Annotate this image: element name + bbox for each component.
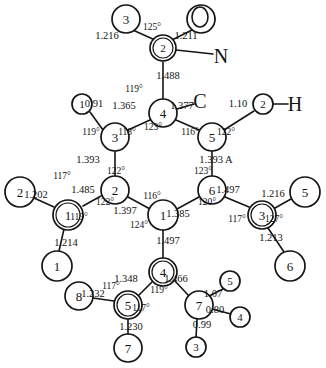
atom-o2-left-label: 2 (17, 185, 24, 200)
angle-119-c2sub: 119° (70, 213, 88, 223)
angle-123-c4: 123° (144, 123, 162, 133)
bond-length-1216-right: 1.216 (261, 189, 285, 200)
atom-h3-bottom[interactable]: 3 (186, 337, 206, 357)
atom-o7-bottom-label: 7 (125, 341, 132, 356)
element-label-N: N (214, 45, 228, 67)
bond-length-1488: 1.488 (156, 71, 180, 82)
angle-117-c5b: 117° (102, 282, 120, 292)
molecular-structure-diagram: 3424351226112135645877543NCH 1.2161.2111… (0, 0, 326, 368)
atom-n2-label: 2 (160, 42, 166, 54)
angle-116-c5: 116° (181, 128, 199, 138)
bond-length-1377: 1.377 (170, 101, 194, 112)
element-label-H: H (288, 93, 302, 115)
element-label-O (192, 7, 208, 27)
atom-o6-right-low-label: 6 (287, 259, 294, 274)
angle-125: 125° (143, 23, 161, 33)
bond-length-099: 0.99 (193, 320, 211, 331)
bond-length-1385: 1.385 (166, 209, 190, 220)
angle-127-c3sub: 127° (265, 215, 283, 225)
atom-n7-bottom-label: 7 (196, 298, 203, 313)
atom-o7-bottom[interactable]: 7 (114, 334, 142, 362)
atom-h5-bottom-label: 5 (227, 275, 233, 287)
angle-117-c2sub: 117° (53, 172, 71, 182)
angle-122-c2low: 122° (96, 198, 114, 208)
atom-n2[interactable]: 2 (150, 35, 176, 61)
atom-c2-ring-left-label: 2 (112, 183, 119, 198)
bond-length-1230: 1.230 (119, 322, 143, 333)
atom-c4-ring-top-label: 4 (160, 106, 167, 121)
angle-117-c3sub: 117° (228, 215, 246, 225)
bond-length-1497-right: 1.497 (216, 185, 240, 196)
atom-c5-ring-right-label: 5 (209, 130, 216, 145)
bond-length-1211-top: 1.211 (174, 31, 197, 42)
angle-117-c5b2: 117° (132, 304, 150, 314)
atom-o1-left-low-label: 1 (54, 259, 61, 274)
bond-length-1213: 1.213 (259, 233, 283, 244)
atom-o3-top-label: 3 (123, 12, 130, 27)
angle-123-c6: 123° (194, 167, 212, 177)
bond-length-1393-right: 1.393 A (199, 155, 232, 166)
bond-length-1497-center: 1.497 (156, 236, 180, 247)
atom-h5-bottom[interactable]: 5 (220, 271, 240, 291)
atom-o1-left-low[interactable]: 1 (42, 251, 72, 281)
bond-n2-N (176, 50, 213, 54)
angle-118-c3: 118° (118, 128, 136, 138)
bond-length-1214: 1.214 (54, 238, 78, 249)
bond-length-1202: 1.202 (24, 190, 48, 201)
bond-c6-sub (225, 197, 249, 207)
bond-length-107: 1.07 (204, 289, 222, 300)
element-label-C: C (193, 90, 206, 112)
atom-c5-bottom-label: 5 (125, 298, 132, 313)
bond-length-091: 0.91 (85, 99, 103, 110)
bond-length-1485: 1.485 (71, 185, 95, 196)
atom-h2-right-top-label: 2 (260, 98, 266, 110)
bond-length-110: 1.10 (229, 99, 247, 110)
angle-119-top: 119° (125, 85, 143, 95)
atom-c6-ring-right-label: 6 (209, 183, 216, 198)
bond-length-1393-left: 1.393 (76, 155, 100, 166)
atom-o5-right[interactable]: 5 (290, 177, 320, 207)
atom-h3-bottom-label: 3 (193, 341, 199, 353)
angle-124-c1: 124° (130, 221, 148, 231)
angle-116-c1: 116° (143, 192, 161, 202)
angle-120-c6: 120° (198, 198, 216, 208)
angle-119-c3: 119° (82, 128, 100, 138)
bond-length-1365: 1.365 (112, 101, 136, 112)
angle-119-c4b: 119° (150, 286, 168, 296)
angle-122-c2: 122° (107, 167, 125, 177)
bond-length-1397: 1.397 (113, 206, 137, 217)
bond-length-1466: 1.466 (164, 274, 188, 285)
atom-o6-right-low[interactable]: 6 (275, 251, 305, 281)
atom-o5-right-label: 5 (302, 185, 309, 200)
angle-122-c5: 122° (217, 128, 235, 138)
atom-h4-bottom[interactable]: 4 (230, 307, 250, 327)
atom-h2-right-top[interactable]: 2 (253, 94, 273, 114)
bond-length-080: 0.80 (206, 305, 224, 316)
bond-length-1216-top: 1.216 (95, 31, 119, 42)
bond-sub-o5 (275, 199, 291, 208)
structure-canvas: 3424351226112135645877543NCH (0, 0, 326, 368)
atom-h4-bottom-label: 4 (237, 311, 243, 323)
